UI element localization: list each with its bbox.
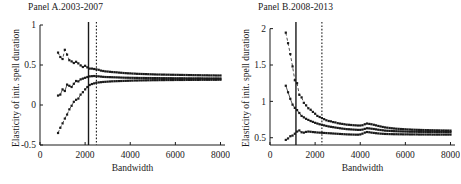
data-point-marker <box>154 77 156 79</box>
data-point-marker <box>364 128 366 130</box>
data-point-marker <box>404 128 406 130</box>
data-point-marker <box>366 122 368 124</box>
data-point-marker <box>156 73 158 75</box>
data-point-marker <box>91 75 93 77</box>
y-tick-label: 0.5 <box>254 133 266 143</box>
y-tick-label: 1 <box>31 20 36 30</box>
data-point-marker <box>93 68 95 70</box>
data-point-marker <box>418 131 420 133</box>
data-point-marker <box>170 79 172 81</box>
data-point-marker <box>316 115 318 117</box>
data-point-marker <box>316 122 318 124</box>
data-point-marker <box>120 76 122 78</box>
data-point-marker <box>400 130 402 132</box>
data-point-marker <box>118 72 120 74</box>
data-point-marker <box>210 74 212 76</box>
x-tick-label: 6000 <box>166 150 185 160</box>
data-point-marker <box>384 133 386 135</box>
data-point-marker <box>310 120 312 122</box>
data-point-marker <box>177 79 179 81</box>
x-tick-label: 4000 <box>351 150 370 160</box>
data-point-marker <box>393 130 395 132</box>
y-tick-label: 1.5 <box>254 60 266 70</box>
data-point-marker <box>375 124 377 126</box>
data-point-marker <box>66 84 68 86</box>
data-point-marker <box>411 133 413 135</box>
data-point-marker <box>127 77 129 79</box>
y-tick-label: 0 <box>31 100 36 110</box>
data-point-marker <box>113 76 115 78</box>
data-point-marker <box>411 129 413 131</box>
panel-a-yaxis-label: Elasticity of init. spell duration <box>11 29 21 147</box>
data-point-marker <box>140 79 142 81</box>
data-point-marker <box>440 134 442 136</box>
x-tick-label: 0 <box>268 150 273 160</box>
data-point-marker <box>107 81 109 83</box>
data-point-marker <box>368 131 370 133</box>
data-point-marker <box>294 133 296 135</box>
data-point-marker <box>431 131 433 133</box>
data-point-marker <box>122 72 124 74</box>
data-point-marker <box>111 76 113 78</box>
data-point-marker <box>80 94 82 96</box>
y-tick-label: 0.5 <box>24 60 36 70</box>
data-point-marker <box>145 77 147 79</box>
data-point-marker <box>319 132 321 134</box>
data-point-marker <box>402 130 404 132</box>
data-point-marker <box>143 79 145 81</box>
data-point-marker <box>377 132 379 134</box>
data-point-marker <box>64 49 66 51</box>
data-point-marker <box>168 74 170 76</box>
data-point-marker <box>330 126 332 128</box>
data-point-marker <box>77 98 79 100</box>
data-point-marker <box>161 74 163 76</box>
data-point-marker <box>100 76 102 78</box>
data-point-marker <box>291 134 293 136</box>
data-point-marker <box>215 74 217 76</box>
x-tick-label: 2000 <box>76 150 95 160</box>
data-point-marker <box>391 133 393 135</box>
data-point-marker <box>161 79 163 81</box>
data-point-marker <box>163 79 165 81</box>
data-point-marker <box>134 77 136 79</box>
data-point-marker <box>140 73 142 75</box>
data-point-marker <box>125 72 127 74</box>
data-point-marker <box>116 80 118 82</box>
data-point-marker <box>379 133 381 135</box>
data-point-marker <box>384 130 386 132</box>
data-point-marker <box>334 121 336 123</box>
data-point-marker <box>186 79 188 81</box>
data-point-marker <box>143 73 145 75</box>
data-point-marker <box>287 42 289 44</box>
data-point-marker <box>298 129 300 131</box>
data-point-marker <box>158 77 160 79</box>
data-point-marker <box>361 128 363 130</box>
data-point-marker <box>195 79 197 81</box>
data-point-marker <box>416 133 418 135</box>
data-point-marker <box>149 79 151 81</box>
data-point-marker <box>68 59 70 61</box>
data-point-marker <box>82 91 84 93</box>
data-point-marker <box>440 131 442 133</box>
data-point-marker <box>346 124 348 126</box>
data-point-marker <box>104 76 106 78</box>
data-point-marker <box>287 91 289 93</box>
data-point-marker <box>323 132 325 134</box>
data-point-marker <box>303 102 305 104</box>
data-point-marker <box>422 133 424 135</box>
data-point-marker <box>427 131 429 133</box>
data-point-marker <box>109 76 111 78</box>
data-point-marker <box>183 79 185 81</box>
data-point-marker <box>427 133 429 135</box>
data-point-marker <box>109 80 111 82</box>
data-point-marker <box>425 131 427 133</box>
data-point-marker <box>206 74 208 76</box>
data-point-marker <box>404 130 406 132</box>
data-point-marker <box>429 131 431 133</box>
data-point-marker <box>163 74 165 76</box>
data-point-marker <box>300 96 302 98</box>
data-point-marker <box>355 129 357 131</box>
data-point-marker <box>298 112 300 114</box>
data-point-marker <box>104 70 106 72</box>
data-point-marker <box>201 74 203 76</box>
